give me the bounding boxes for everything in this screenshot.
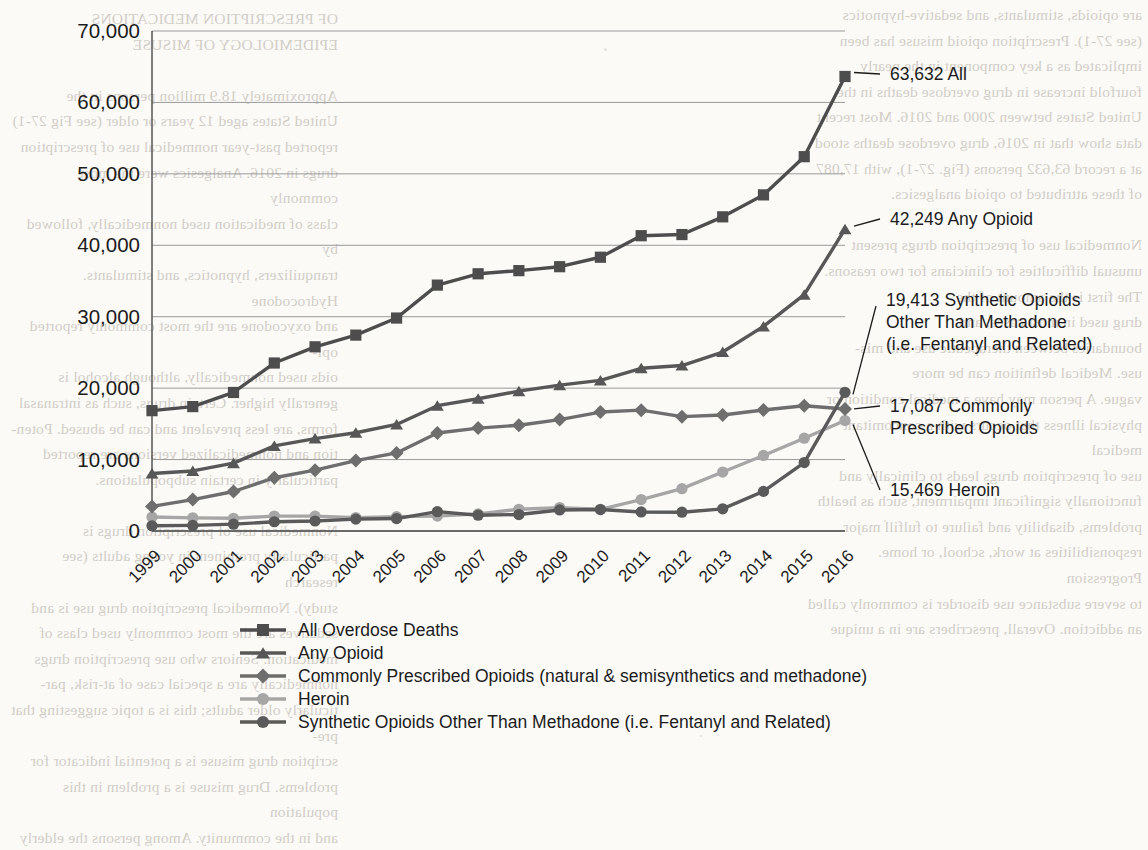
data-point: [797, 399, 811, 413]
callout-label-prescribed-line1: 17,087 Commonly: [890, 396, 1032, 416]
legend-label: Commonly Prescribed Opioids (natural & s…: [298, 666, 867, 686]
x-axis-tick-label: 2007: [451, 546, 491, 586]
data-point: [228, 519, 239, 530]
legend-item-commonly-prescribed-opioids: Commonly Prescribed Opioids (natural & s…: [240, 666, 867, 686]
data-point: [839, 71, 850, 82]
data-point: [636, 494, 647, 505]
data-point: [309, 341, 320, 352]
data-point: [391, 513, 402, 524]
y-axis-tick-label: 10,000: [77, 448, 140, 471]
data-point: [717, 211, 728, 222]
x-axis-tick-label: 2014: [736, 546, 776, 586]
x-axis-tick-label: 2016: [818, 546, 858, 586]
x-axis-tick-label: 2001: [206, 546, 246, 586]
data-point: [554, 504, 565, 515]
legend-marker-diamond: [255, 668, 270, 683]
data-point: [756, 403, 770, 417]
callout-label-synthetic-line2: Other Than Methadone: [886, 312, 1067, 332]
data-point: [758, 486, 769, 497]
data-point: [471, 421, 485, 435]
data-point: [187, 401, 198, 412]
y-axis-tick-label: 30,000: [77, 305, 140, 328]
x-axis-labels-group: 1999200020012002200320042005200620072008…: [125, 546, 858, 586]
y-axis-tick-label: 70,000: [77, 19, 140, 42]
data-point: [554, 261, 565, 272]
data-point: [432, 280, 443, 291]
x-axis-tick-label: 2010: [573, 546, 613, 586]
data-point: [593, 405, 607, 419]
data-point: [146, 405, 157, 416]
data-point: [676, 483, 687, 494]
x-axis-tick-label: 2005: [369, 546, 409, 586]
data-point: [308, 463, 322, 477]
data-point: [839, 387, 850, 398]
x-axis-tick-label: 1999: [125, 546, 165, 586]
data-point: [512, 418, 526, 432]
data-point: [349, 454, 363, 468]
callout-leader-any-opioid: [854, 219, 880, 226]
series-line: [152, 421, 845, 519]
data-point: [716, 408, 730, 422]
callout-label-all: 63,632 All: [890, 64, 967, 84]
data-point: [430, 426, 444, 440]
data-point: [717, 466, 728, 477]
data-point: [636, 230, 647, 241]
data-point: [391, 312, 402, 323]
data-point: [839, 415, 850, 426]
data-point: [473, 510, 484, 521]
series-synthetic-opioids-other-than-methadone: [146, 387, 850, 532]
callout-leader-all: [854, 72, 880, 74]
legend-item-synthetic-opioids-other-than-methadone: Synthetic Opioids Other Than Methadone (…: [240, 712, 831, 732]
data-point: [595, 252, 606, 263]
callout-leader-prescribed: [854, 406, 880, 409]
data-point: [758, 189, 769, 200]
series-line: [152, 406, 845, 507]
callout-label-heroin: 15,469 Heroin: [890, 480, 1000, 500]
callout-leader-heroin: [853, 425, 880, 490]
data-point: [432, 506, 443, 517]
series-any-opioid: [146, 224, 852, 479]
x-axis-tick-label: 2006: [410, 546, 450, 586]
y-axis-tick-label: 0: [129, 519, 140, 542]
x-axis-tick-label: 2002: [247, 546, 287, 586]
callout-label-synthetic-line1: 19,413 Synthetic Opioids: [886, 290, 1081, 310]
data-point: [390, 446, 404, 460]
y-axis-tick-label: 50,000: [77, 162, 140, 185]
x-axis-tick-label: 2012: [654, 546, 694, 586]
callout-label-synthetic-line3: (i.e. Fentanyl and Related): [886, 334, 1092, 354]
legend-marker-circle: [257, 716, 269, 728]
legend-label: Any Opioid: [298, 643, 384, 663]
data-point: [676, 507, 687, 518]
series-line: [152, 76, 845, 410]
x-axis-tick-label: 2015: [777, 546, 817, 586]
legend-label: Heroin: [298, 689, 350, 709]
data-point: [513, 509, 524, 520]
data-point: [227, 484, 241, 498]
data-point: [186, 493, 200, 507]
data-point: [473, 268, 484, 279]
series-line: [152, 229, 845, 473]
data-point: [636, 506, 647, 517]
legend-label: All Overdose Deaths: [298, 620, 459, 640]
data-point: [798, 289, 811, 300]
data-point: [717, 503, 728, 514]
callout-label-prescribed-line2: Prescribed Opioids: [890, 418, 1038, 438]
data-point: [513, 265, 524, 276]
data-point: [676, 229, 687, 240]
legend-marker-circle: [257, 693, 269, 705]
legend-item-any-opioid: Any Opioid: [240, 643, 384, 663]
data-point: [675, 410, 689, 424]
callout-leader-synthetic: [853, 306, 876, 394]
y-axis-tick-label: 40,000: [77, 233, 140, 256]
legend-label: Synthetic Opioids Other Than Methadone (…: [298, 712, 831, 732]
data-point: [269, 516, 280, 527]
series-all-overdose-deaths: [146, 71, 850, 416]
y-axis-tick-label: 60,000: [77, 90, 140, 113]
data-point: [267, 471, 281, 485]
gridlines-group: 010,00020,00030,00040,00050,00060,00070,…: [77, 19, 845, 542]
data-point: [595, 504, 606, 515]
data-point: [350, 330, 361, 341]
data-point: [634, 403, 648, 417]
